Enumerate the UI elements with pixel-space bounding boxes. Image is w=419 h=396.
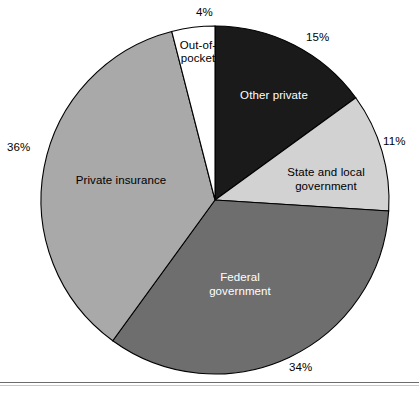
slice-label-state-and-local-government: State and local government <box>272 166 380 193</box>
slice-percent-federal-government: 34% <box>289 361 312 374</box>
pie-slices-group <box>41 26 389 374</box>
slice-percent-out-of-pocket: 4% <box>196 6 213 19</box>
slice-label-federal-government: Federal government <box>188 271 292 298</box>
slice-percent-state-and-local-government: 11% <box>383 135 405 148</box>
slice-label-private-insurance: Private insurance <box>62 174 180 188</box>
footer-divider-shadow <box>0 385 419 386</box>
pie-chart-figure: Other private State and local government… <box>0 0 419 396</box>
slice-label-other-private: Other private <box>222 89 326 103</box>
slice-label-out-of-pocket: Out-of- pocket <box>171 39 225 65</box>
slice-percent-other-private: 15% <box>306 31 329 44</box>
slice-percent-private-insurance: 36% <box>7 141 30 154</box>
footer-divider <box>0 382 419 383</box>
